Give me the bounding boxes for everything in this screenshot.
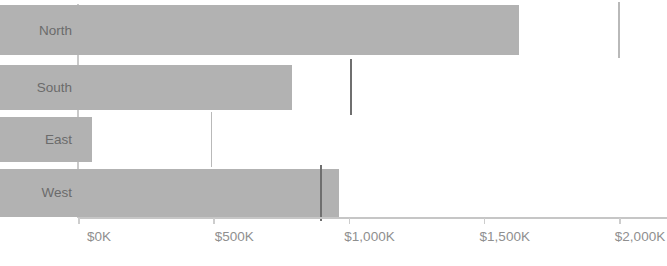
y-tick-label-south: South	[37, 81, 72, 95]
y-tick-label-west: West	[41, 186, 72, 200]
x-axis-tick-0	[78, 218, 80, 224]
bar-row-east[interactable]	[0, 117, 667, 162]
reference-line-west	[320, 165, 322, 221]
x-axis-line	[78, 217, 667, 219]
x-axis-tick-1000	[349, 218, 351, 224]
reference-line-south	[350, 59, 352, 115]
bar-row-north[interactable]	[0, 5, 667, 55]
y-tick-label-north: North	[39, 24, 72, 38]
x-tick-label-0: $0K	[87, 230, 111, 244]
reference-line-east	[211, 112, 213, 167]
x-tick-label-500: $500K	[215, 230, 254, 244]
bar-chart: North South East West $0K $500K $1,000K …	[0, 0, 667, 266]
bar-row-south[interactable]	[0, 65, 667, 110]
x-axis-tick-500	[213, 218, 215, 224]
reference-line-north	[618, 2, 620, 58]
bar-row-west[interactable]	[0, 169, 667, 217]
x-axis-tick-2000	[619, 218, 621, 224]
bar-north[interactable]	[0, 5, 519, 55]
x-tick-label-1000: $1,000K	[344, 230, 394, 244]
x-axis-tick-1500	[484, 218, 486, 224]
y-tick-label-east: East	[45, 133, 72, 147]
x-tick-label-2000: $2,000K	[615, 230, 665, 244]
x-tick-label-1500: $1,500K	[480, 230, 530, 244]
